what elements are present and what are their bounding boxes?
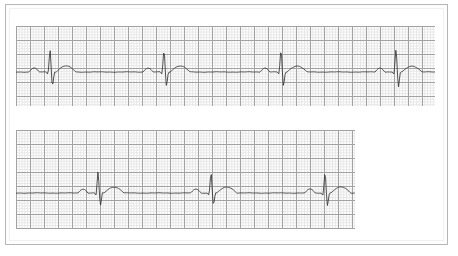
ecg-strip-bottom[interactable]: [16, 130, 355, 229]
ecg-trace-top: [16, 26, 435, 106]
ecg-trace-bottom: [16, 130, 355, 229]
ecg-strip-top[interactable]: [16, 26, 435, 106]
ecg-viewer: [0, 0, 458, 256]
